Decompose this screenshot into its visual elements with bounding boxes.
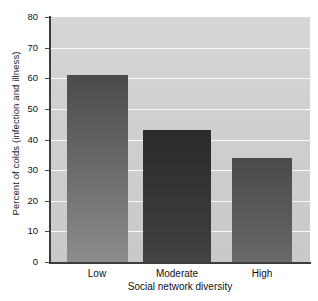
y-tick-label: 20 — [12, 196, 38, 206]
bar-low — [67, 75, 128, 262]
y-tick-label: 50 — [12, 104, 38, 114]
x-axis-line — [49, 262, 311, 264]
x-axis-tick-labels: Low Moderate High — [50, 267, 310, 281]
bar-moderate — [143, 130, 211, 262]
y-axis-line — [49, 16, 51, 263]
y-tick-label: 30 — [12, 165, 38, 175]
plot-area — [50, 17, 310, 262]
x-axis-title: Social network diversity — [50, 281, 310, 292]
y-tick-label: 40 — [12, 135, 38, 145]
y-axis-tick-labels: 0 10 20 30 40 50 60 70 80 — [12, 17, 38, 262]
x-tick-label-high: High — [227, 267, 297, 280]
bar-high — [232, 158, 292, 262]
x-tick-label-low: Low — [62, 267, 132, 280]
y-tick-label: 10 — [12, 226, 38, 236]
x-tick-label-moderate: Moderate — [142, 267, 212, 280]
y-tick-label: 70 — [12, 43, 38, 53]
bar-chart: Percent of colds (infection and illness)… — [0, 0, 318, 301]
y-tick-label: 80 — [12, 12, 38, 22]
y-tick-label: 0 — [12, 257, 38, 267]
y-tick-label: 60 — [12, 73, 38, 83]
gridline — [50, 48, 310, 49]
